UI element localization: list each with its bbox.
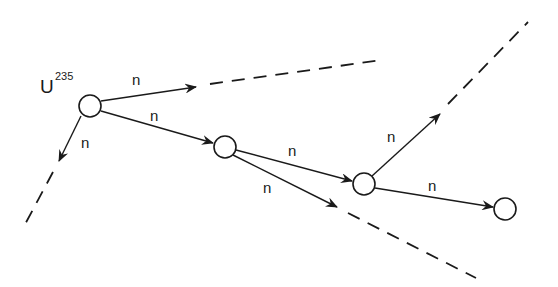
nucleus-4 (494, 198, 516, 220)
neutron-label: n (428, 177, 436, 194)
neutron-trajectories-dashed (22, 22, 528, 278)
neutron-label: n (81, 134, 89, 151)
neutron-arrow (101, 87, 196, 101)
neutron-trajectory-dashed (210, 60, 382, 84)
neutron-trajectory-dashed (22, 172, 53, 230)
isotope-label: U 235 (40, 70, 73, 97)
neutron-arrow (372, 114, 440, 176)
neutron-trajectory-dashed (448, 22, 528, 104)
neutron-labels: nnnnnnn (81, 71, 436, 196)
fission-chain-diagram: nnnnnnn U 235 (0, 0, 558, 287)
neutron-trajectory-dashed (348, 213, 476, 278)
nucleus-3 (353, 173, 375, 195)
nuclei (79, 95, 516, 220)
nucleus-1 (79, 95, 101, 117)
nucleus-2 (214, 136, 236, 158)
neutron-label: n (263, 179, 271, 196)
neutron-label: n (288, 142, 296, 159)
neutron-arrow (59, 116, 81, 161)
neutron-label: n (132, 71, 140, 88)
neutron-label: n (150, 107, 158, 124)
isotope-mass-number: 235 (55, 70, 73, 82)
neutron-label: n (387, 128, 395, 145)
isotope-symbol: U (40, 76, 54, 97)
